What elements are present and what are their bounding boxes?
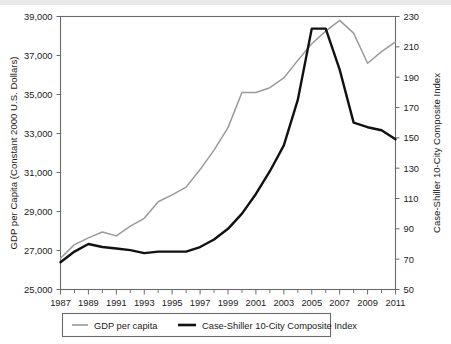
y-tick-label: 25,000 xyxy=(24,285,52,295)
x-tick-label: 1999 xyxy=(218,298,239,308)
chart-figure: 25,00027,00029,00031,00033,00035,00037,0… xyxy=(0,0,451,344)
y-axis-title: GDP per Capita (Constant 2000 U.S. Dolla… xyxy=(8,57,19,250)
x-tick-label: 1995 xyxy=(162,298,183,308)
x-tick-label: 1993 xyxy=(134,298,155,308)
y2-tick-label: 150 xyxy=(404,133,420,143)
legend-label-gdp-per-capita: GDP per capita xyxy=(94,321,158,331)
y2-tick-label: 190 xyxy=(404,73,420,83)
x-tick-label: 2003 xyxy=(273,298,294,308)
legend-label-case-shiller: Case-Shiller 10-City Composite Index xyxy=(202,321,357,331)
y2-tick-label: 210 xyxy=(404,42,420,52)
y2-tick-label: 130 xyxy=(404,164,420,174)
y-tick-label: 35,000 xyxy=(24,90,52,100)
x-tick-label: 2009 xyxy=(357,298,378,308)
bottom-axis: 1987198919911993199519971999200120032005… xyxy=(50,290,405,308)
y-tick-label: 31,000 xyxy=(24,168,52,178)
series-line-gdp-per-capita xyxy=(61,20,396,258)
scan-artifact-band xyxy=(0,0,451,5)
x-tick-label: 2005 xyxy=(301,298,322,308)
y2-tick-label: 90 xyxy=(404,224,414,234)
left-axis: 25,00027,00029,00031,00033,00035,00037,0… xyxy=(24,12,60,295)
y-tick-label: 39,000 xyxy=(24,12,52,22)
y2-tick-label: 110 xyxy=(404,194,419,204)
right-axis: 507090110130150170190210230 xyxy=(396,12,420,295)
x-tick-label: 1991 xyxy=(106,298,127,308)
y-tick-label: 29,000 xyxy=(24,207,52,217)
y-tick-label: 27,000 xyxy=(24,246,52,256)
x-tick-label: 1987 xyxy=(50,298,71,308)
x-tick-label: 2011 xyxy=(386,298,406,308)
y-tick-label: 33,000 xyxy=(24,129,52,139)
dual-axis-line-chart: 25,00027,00029,00031,00033,00035,00037,0… xyxy=(0,0,451,344)
y2-tick-label: 70 xyxy=(404,255,414,265)
chart-legend: GDP per capita Case-Shiller 10-City Comp… xyxy=(63,314,358,337)
y2-tick-label: 170 xyxy=(404,103,420,113)
y2-tick-label: 50 xyxy=(404,285,414,295)
series-line-case-shiller xyxy=(61,29,396,263)
y2-tick-label: 230 xyxy=(404,12,420,22)
x-tick-label: 2007 xyxy=(329,298,350,308)
y-tick-label: 37,000 xyxy=(24,51,52,61)
x-tick-label: 1997 xyxy=(190,298,211,308)
x-tick-label: 1989 xyxy=(78,298,99,308)
y2-axis-title: Case-Shiller 10-City Composite Index xyxy=(431,73,442,233)
x-tick-label: 2001 xyxy=(246,298,267,308)
